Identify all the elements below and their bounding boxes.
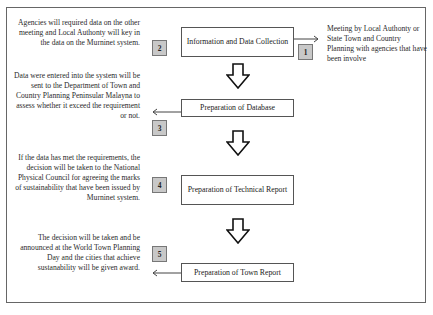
step-4-box: Preparation of Technical Report — [181, 175, 294, 205]
step-3-description: Data were entered into the system will b… — [14, 71, 140, 121]
step-4-badge: 4 — [152, 177, 167, 193]
arrow-left-icon — [151, 269, 181, 277]
arrow-right-icon — [294, 35, 320, 43]
step-5-box: Preparation of Town Report — [181, 263, 294, 282]
step-3-badge: 3 — [152, 120, 167, 136]
arrow-left-icon — [151, 108, 181, 116]
step-3-box: Preparation of Database — [181, 99, 294, 117]
step-2-description: Agencies will required data on the other… — [14, 18, 140, 48]
step-4-description: If the data has met the requirements, th… — [14, 153, 140, 203]
step-1-badge: 1 — [298, 44, 313, 60]
down-arrow-icon — [226, 130, 250, 156]
step-5-badge: 5 — [152, 246, 167, 262]
step-1-description: Meeting by Local Authonty or State Town … — [327, 24, 427, 64]
step-2-badge: 2 — [152, 40, 167, 56]
down-arrow-icon — [226, 218, 250, 244]
step-5-description: The decision will be taken and be announ… — [14, 233, 140, 273]
step-1-box: Information and Data Collection — [181, 27, 294, 57]
down-arrow-icon — [226, 63, 250, 89]
